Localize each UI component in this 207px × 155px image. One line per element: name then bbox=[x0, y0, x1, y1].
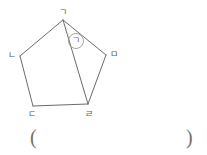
edge-nieun-digeut bbox=[20, 56, 33, 106]
angle-marker-label: ㄱ bbox=[72, 36, 80, 45]
diagonal-giyeok-rieul bbox=[63, 20, 88, 104]
edge-digeut-rieul bbox=[33, 104, 88, 106]
vertex-label-digeut: ㄷ bbox=[28, 110, 36, 119]
answer-close-paren: ) bbox=[186, 127, 193, 147]
vertex-label-nieun: ㄴ bbox=[8, 51, 16, 60]
vertex-label-rieul: ㄹ bbox=[85, 110, 93, 119]
edge-rieul-mieum bbox=[88, 55, 106, 104]
vertex-label-mieum: ㅁ bbox=[110, 50, 118, 59]
edge-giyeok-nieun bbox=[20, 20, 63, 56]
answer-open-paren: ( bbox=[30, 127, 37, 147]
vertex-label-giyeok: ㄱ bbox=[59, 8, 67, 17]
